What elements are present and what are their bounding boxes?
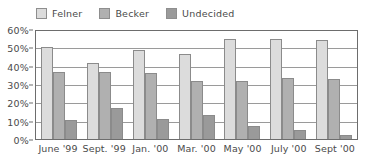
y-tick-mark: [29, 103, 33, 104]
bar-undecided[interactable]: [111, 108, 123, 139]
legend-label: Felner: [52, 8, 82, 19]
bar-felner[interactable]: [41, 47, 53, 139]
legend-swatch-icon-undecided: [166, 8, 177, 19]
bar-group: [36, 31, 82, 139]
y-axis: 60%50%40%30%20%10%0%: [0, 30, 33, 140]
legend-label: Becker: [115, 8, 149, 19]
bar-becker[interactable]: [236, 81, 248, 140]
y-tick-label: 40%: [7, 61, 29, 72]
bar-undecided[interactable]: [248, 126, 260, 139]
bar-undecided[interactable]: [340, 135, 352, 140]
bar-felner[interactable]: [133, 50, 145, 139]
legend-swatch-icon-felner: [36, 8, 47, 19]
y-tick-label: 20%: [7, 98, 29, 109]
bar-felner[interactable]: [179, 54, 191, 139]
y-tick-label: 50%: [7, 43, 29, 54]
y-tick-mark: [29, 48, 33, 49]
bar-undecided[interactable]: [157, 119, 169, 139]
legend-item-becker[interactable]: Becker: [99, 8, 149, 19]
bar-becker[interactable]: [99, 72, 111, 139]
legend-label: Undecided: [182, 8, 234, 19]
x-tick-label: Sept. '99: [81, 143, 127, 159]
y-tick-label: 30%: [7, 80, 29, 91]
bar-group: [174, 31, 220, 139]
bar-becker[interactable]: [328, 79, 340, 139]
x-tick-label: Mar. '00: [173, 143, 219, 159]
x-tick-label: July '00: [266, 143, 312, 159]
y-tick-label: 60%: [7, 25, 29, 36]
x-tick-label: Sept '00: [312, 143, 358, 159]
chart-legend: FelnerBeckerUndecided: [36, 4, 235, 22]
bar-undecided[interactable]: [203, 115, 215, 139]
bar-group: [265, 31, 311, 139]
y-tick-mark: [29, 140, 33, 141]
bars-container: [36, 31, 357, 139]
y-tick-label: 0%: [14, 135, 29, 146]
bar-felner[interactable]: [87, 63, 99, 140]
x-tick-label: Jan. '00: [127, 143, 173, 159]
bar-group: [128, 31, 174, 139]
bar-group: [82, 31, 128, 139]
legend-swatch-icon-becker: [99, 8, 110, 19]
bar-felner[interactable]: [224, 39, 236, 139]
legend-item-felner[interactable]: Felner: [36, 8, 82, 19]
bar-felner[interactable]: [316, 40, 328, 139]
bar-undecided[interactable]: [294, 130, 306, 139]
bar-becker[interactable]: [53, 72, 65, 140]
x-tick-label: June '99: [35, 143, 81, 159]
y-tick-mark: [29, 121, 33, 122]
y-tick-mark: [29, 30, 33, 31]
x-tick-label: May '00: [220, 143, 266, 159]
y-tick-mark: [29, 66, 33, 67]
bar-becker[interactable]: [191, 81, 203, 140]
bar-chart: FelnerBeckerUndecided 60%50%40%30%20%10%…: [0, 0, 370, 166]
y-tick-mark: [29, 85, 33, 86]
bar-becker[interactable]: [145, 73, 157, 139]
legend-item-undecided[interactable]: Undecided: [166, 8, 234, 19]
bar-becker[interactable]: [282, 78, 294, 139]
bar-undecided[interactable]: [65, 120, 77, 139]
y-tick-label: 10%: [7, 116, 29, 127]
bar-group: [219, 31, 265, 139]
bar-felner[interactable]: [270, 39, 282, 139]
x-axis: June '99Sept. '99Jan. '00Mar. '00May '00…: [35, 143, 358, 159]
bar-group: [311, 31, 357, 139]
